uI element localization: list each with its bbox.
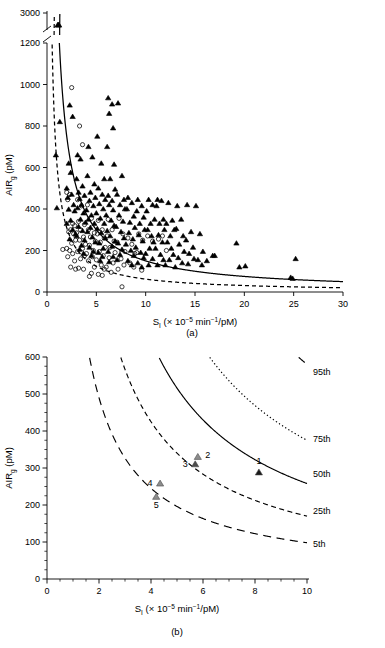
y-tick-label-3000: 3000 <box>20 8 40 18</box>
y-tick-label: 600 <box>25 352 40 362</box>
subject-label-3: 3 <box>183 459 188 469</box>
data-point-triangle <box>105 144 110 148</box>
data-point-triangle <box>102 176 107 180</box>
data-point-triangle <box>161 217 166 221</box>
data-point-triangle <box>100 192 105 196</box>
data-point-circle <box>156 237 160 241</box>
data-point-triangle <box>127 220 132 224</box>
data-point-triangle <box>155 197 160 201</box>
data-point-circle <box>113 250 117 254</box>
data-point-triangle <box>101 246 106 250</box>
x-tick-label: 5 <box>94 299 99 309</box>
data-point-triangle <box>109 198 114 202</box>
data-point-triangle <box>141 255 146 259</box>
data-point-triangle <box>115 101 120 105</box>
data-point-circle <box>69 265 73 269</box>
data-point-triangle <box>144 209 149 213</box>
data-point-triangle <box>199 262 204 266</box>
data-point-triangle <box>87 198 92 202</box>
data-point-triangle <box>75 152 80 156</box>
y-tick-label: 800 <box>25 121 40 131</box>
data-point-circle <box>80 143 84 147</box>
x-tick-label: 0 <box>44 586 49 596</box>
data-point-triangle <box>106 259 111 263</box>
panel-b: 0246810010020030040050060095th75th50th25… <box>0 340 385 648</box>
data-point-triangle <box>88 190 93 194</box>
data-point-triangle <box>89 213 94 217</box>
data-point-triangle <box>204 258 209 262</box>
data-point-triangle <box>237 265 242 269</box>
data-point-triangle <box>106 95 111 99</box>
data-point-triangle <box>161 257 166 261</box>
data-point-circle <box>94 258 98 262</box>
data-point-triangle <box>150 202 155 206</box>
y-tick-label: 200 <box>25 500 40 510</box>
subject-label-2: 2 <box>205 450 210 460</box>
data-point-triangle <box>135 197 140 201</box>
panel-label-b: (b) <box>171 626 183 637</box>
data-point-triangle <box>151 240 156 244</box>
data-point-triangle <box>67 103 72 107</box>
data-point-triangle <box>90 155 95 159</box>
data-point-circle <box>100 273 104 277</box>
data-point-triangle <box>106 202 111 206</box>
data-point-triangle <box>85 173 90 177</box>
data-point-triangle <box>152 217 157 221</box>
data-point-triangle <box>116 213 121 217</box>
data-point-circle <box>77 238 81 242</box>
data-point-triangle <box>197 231 202 235</box>
y-tick-label: 400 <box>25 204 40 214</box>
data-point-circle <box>119 257 123 261</box>
subject-marker-1 <box>255 469 262 475</box>
data-point-triangle <box>180 260 185 264</box>
data-point-triangle <box>150 256 155 260</box>
x-tick-label: 0 <box>44 299 49 309</box>
data-point-triangle <box>64 186 69 190</box>
data-point-triangle <box>53 152 58 156</box>
data-point-triangle <box>128 248 133 252</box>
data-point-circle <box>65 190 69 194</box>
data-point-triangle <box>103 197 108 201</box>
data-point-triangle <box>126 230 131 234</box>
data-point-circle <box>130 242 134 246</box>
data-point-triangle <box>164 221 169 225</box>
percentile-label-5th: 5th <box>313 539 326 549</box>
percentile-label-25th: 25th <box>313 506 331 516</box>
panel-b-chart: 0246810010020030040050060095th75th50th25… <box>0 340 385 648</box>
y-axis-title: AIRg (pM) <box>3 447 17 489</box>
data-point-triangle <box>147 246 152 250</box>
data-point-circle <box>83 242 87 246</box>
figure-container: 0510152025300200400600800100012003000AIR… <box>0 0 385 648</box>
data-point-triangle <box>132 225 137 229</box>
data-point-circle <box>77 124 81 128</box>
data-point-triangle <box>54 205 59 209</box>
data-point-triangle <box>181 249 186 253</box>
data-point-circle <box>71 252 75 256</box>
subject-marker-3 <box>192 461 199 467</box>
x-tick-label: 25 <box>289 299 299 309</box>
data-point-triangle <box>200 249 205 253</box>
data-point-triangle <box>243 263 248 267</box>
data-point-triangle <box>117 202 122 206</box>
data-point-triangle <box>94 211 99 215</box>
data-point-triangle <box>114 192 119 196</box>
data-point-triangle <box>112 187 117 191</box>
data-point-triangle <box>110 126 115 130</box>
y-tick-label: 200 <box>25 246 40 256</box>
data-point-triangle <box>173 265 178 269</box>
data-point-triangle <box>191 256 196 260</box>
data-point-triangle <box>184 202 189 206</box>
data-point-triangle <box>158 252 163 256</box>
data-point-triangle <box>137 221 142 225</box>
data-point-triangle <box>74 176 79 180</box>
data-point-triangle <box>77 196 82 200</box>
data-point-triangle <box>96 250 101 254</box>
y-tick-label: 0 <box>35 574 40 584</box>
subject-marker-2 <box>194 453 201 459</box>
data-point-triangle <box>175 203 180 207</box>
y-tick-label: 100 <box>25 537 40 547</box>
data-point-circle <box>73 259 77 263</box>
data-point-circle <box>61 247 65 251</box>
data-point-circle <box>78 257 82 261</box>
panel-b-axes: 02468100100200300400500600 <box>25 352 312 596</box>
